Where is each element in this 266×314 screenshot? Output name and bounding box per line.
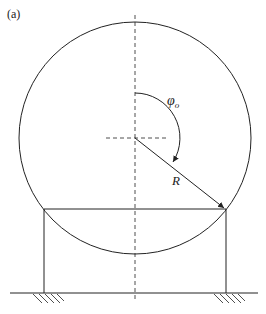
angle-label: φo xyxy=(167,93,180,110)
right-ground-hatch xyxy=(214,294,245,303)
panel-label: (a) xyxy=(7,7,20,21)
left-ground-hatch xyxy=(33,294,64,303)
sphere-on-support-diagram: (a) R φo xyxy=(0,0,266,314)
radius-label: R xyxy=(171,173,180,188)
